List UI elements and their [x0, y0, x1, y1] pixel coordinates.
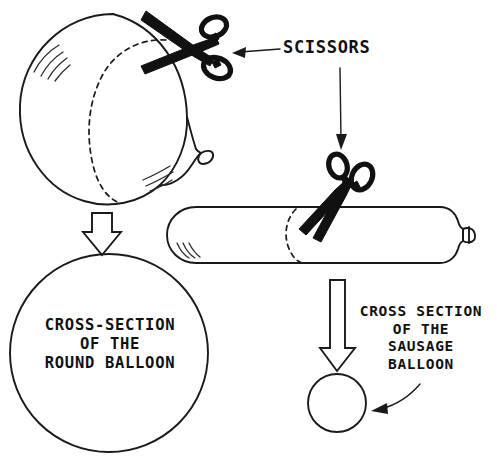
sausage-balloon-cut-line — [286, 209, 302, 263]
round-balloon-highlights-lower — [143, 166, 173, 191]
diagram-artwork — [0, 0, 497, 463]
sausage-balloon-highlights — [177, 243, 200, 258]
scissors-down-arrow — [336, 68, 347, 150]
scissors-top — [141, 11, 234, 83]
round-cross-section-label: CROSS-SECTION OF THE ROUND BALLOON — [25, 316, 195, 373]
scissors-label: SCISSORS — [283, 38, 370, 57]
round-block-arrow — [83, 213, 121, 255]
sausage-cross-section-label: CROSS SECTION OF THE SAUSAGE BALLOON — [350, 303, 492, 374]
scissors-leader-line — [232, 47, 280, 58]
sausage-label-arrow — [371, 384, 420, 414]
sausage-cross-section-circle — [308, 374, 366, 432]
diagram-canvas: SCISSORS CROSS-SECTION OF THE ROUND BALL… — [0, 0, 497, 463]
scissors-right — [299, 152, 377, 242]
